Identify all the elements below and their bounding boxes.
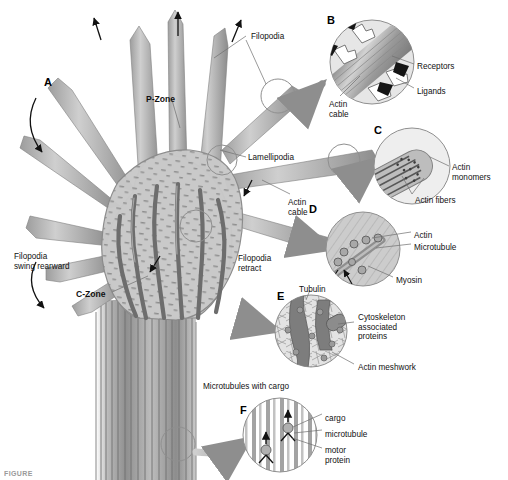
panel-E-label-actin-meshwork: Actin meshwork	[358, 363, 416, 373]
panel-E	[275, 290, 354, 368]
connector-to-E	[246, 322, 276, 330]
panel-E-label-csk-proteins: Cytoskeleton associated proteins	[358, 313, 405, 342]
panel-C	[370, 128, 450, 204]
label-filopodia-top: Filopodia	[251, 32, 284, 42]
panel-B	[322, 16, 419, 104]
panel-F-label-motor-protein: motor protein	[325, 446, 350, 465]
panel-letter-D: D	[309, 203, 317, 215]
panel-F-label-microtubule-f: microtubule	[325, 430, 367, 440]
panel-letter-F: F	[240, 404, 247, 416]
label-A: A	[44, 76, 52, 88]
label-filopodia-retract: Filopodia retract	[238, 254, 271, 273]
cargo	[261, 445, 271, 455]
panel-letter-E: E	[277, 290, 284, 302]
panel-B-label-actin-cable: Actin cable	[329, 100, 349, 119]
label-actin-cable-main: Actin cable	[288, 198, 308, 217]
label-filopodia-swing: Filopodia swing rearward	[14, 252, 70, 271]
figure-caption: FIGURE	[4, 470, 33, 479]
panel-D-label-myosin: Myosin	[396, 276, 422, 286]
panel-D	[326, 212, 411, 286]
connector-to-F	[196, 440, 248, 453]
label-mt-cargo-title: Microtubules with cargo	[203, 382, 289, 392]
label-p-zone: P-Zone	[146, 95, 175, 105]
arrow-extend	[94, 18, 101, 40]
arrow-extend	[232, 20, 241, 42]
axon-shaft	[96, 298, 196, 480]
panel-letter-C: C	[374, 124, 382, 136]
label-lamellipodia: Lamellipodia	[248, 153, 294, 163]
cargo	[283, 423, 293, 433]
panel-B-label-receptors: Receptors	[417, 62, 454, 72]
panel-C-label-actin-fibers: Actin fibers	[415, 196, 456, 206]
panel-letter-B: B	[327, 14, 335, 26]
label-c-zone: C-Zone	[76, 290, 106, 300]
filopodium	[26, 216, 110, 246]
panel-F-label-cargo: cargo	[325, 414, 345, 424]
panel-C-label-actin-monomers: Actin monomers	[452, 163, 491, 182]
panel-B-label-ligands: Ligands	[417, 87, 446, 97]
panel-F	[243, 398, 322, 472]
figure-growth-cone: AP-ZoneC-ZoneFilopodiaLamellipodiaActin …	[0, 0, 508, 480]
panel-E-label-tubulin: Tubulin	[299, 285, 326, 295]
panel-D-label-actin: Actin	[414, 231, 432, 241]
panel-D-label-microtubule: Microtubule	[414, 243, 456, 253]
